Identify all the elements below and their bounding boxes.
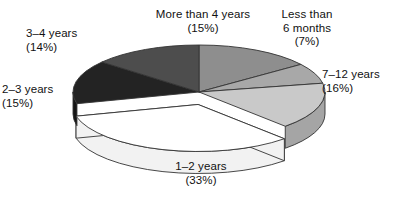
slice-label-1-2-years: 1–2 years (33%): [140, 160, 262, 187]
slice-label-7-12-years: 7–12 years (16%): [322, 68, 402, 95]
slice-label-more-than-4-years-line1: More than 4 years: [156, 8, 250, 20]
slice-label-less-than-6-months-line2: 6 months: [264, 22, 350, 36]
slice-label-2-3-years: 2–3 years (15%): [2, 83, 82, 110]
slice-label-3-4-years-line2: (14%): [26, 41, 116, 55]
slice-label-1-2-years-line1: 1–2 years: [175, 160, 226, 172]
slice-label-1-2-years-line2: (33%): [140, 174, 262, 188]
slice-label-less-than-6-months-line3: (7%): [264, 35, 350, 49]
slice-label-7-12-years-line1: 7–12 years: [322, 68, 380, 80]
slice-label-less-than-6-months-line1: Less than: [282, 8, 333, 20]
slice-label-3-4-years-line1: 3–4 years: [26, 27, 77, 39]
slice-label-3-4-years: 3–4 years (14%): [26, 27, 116, 54]
slice-label-more-than-4-years: More than 4 years (15%): [143, 8, 263, 35]
slice-label-more-than-4-years-line2: (15%): [143, 22, 263, 36]
slice-label-less-than-6-months: Less than 6 months (7%): [264, 8, 350, 49]
pie-chart: More than 4 years (15%) Less than 6 mont…: [0, 0, 403, 206]
slice-label-2-3-years-line1: 2–3 years: [2, 83, 53, 95]
slice-label-7-12-years-line2: (16%): [322, 82, 402, 96]
slice-label-2-3-years-line2: (15%): [2, 97, 82, 111]
